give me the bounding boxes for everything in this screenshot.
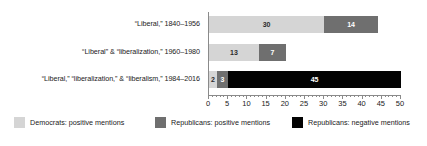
category-label-2: “Liberal,” “liberalization,” & “liberali…	[42, 75, 200, 82]
bar-row: 13 7	[209, 44, 286, 61]
bar-segment-democrats-positive[interactable]: 30	[209, 16, 324, 33]
x-axis-minor-tick	[243, 95, 244, 97]
x-axis-minor-tick	[231, 95, 232, 97]
x-axis-minor-tick	[327, 95, 328, 97]
x-axis-minor-tick	[396, 95, 397, 97]
bar-row: 30 14	[209, 16, 378, 33]
x-axis-tick-label: 0	[206, 100, 210, 108]
x-axis-minor-tick	[254, 95, 255, 97]
x-axis-minor-tick	[385, 95, 386, 97]
bar-segment-republicans-positive[interactable]: 14	[324, 16, 378, 33]
bar-segment-republicans-positive[interactable]: 3	[217, 71, 229, 88]
x-axis-tick-label: 20	[281, 100, 289, 108]
x-axis-minor-tick	[308, 95, 309, 97]
bar-value-label: 3	[220, 76, 224, 83]
x-axis-tick-label: 30	[319, 100, 327, 108]
x-axis-minor-tick	[235, 95, 236, 97]
x-axis-tick-label: 40	[357, 100, 365, 108]
legend-item-democrats-positive[interactable]: Democrats: positive mentions	[14, 117, 124, 128]
x-axis-tick-label: 25	[300, 100, 308, 108]
x-axis-minor-tick	[300, 95, 301, 97]
x-axis-minor-tick	[212, 95, 213, 97]
category-axis-labels: “Liberal,” 1840–1956 “Liberal” & “libera…	[0, 0, 204, 104]
x-axis-minor-tick	[319, 95, 320, 97]
legend-label: Republicans: positive mentions	[171, 119, 270, 126]
bar-value-label: 13	[230, 49, 238, 56]
x-axis-minor-tick	[369, 95, 370, 97]
bar-value-label: 14	[347, 21, 355, 28]
x-axis-minor-tick	[296, 95, 297, 97]
x-axis-tick-label: 15	[261, 100, 269, 108]
category-label-0: “Liberal,” 1840–1956	[135, 20, 200, 27]
bar-segment-republicans-negative[interactable]: 45	[228, 71, 401, 88]
x-axis-minor-tick	[392, 95, 393, 97]
x-axis-minor-tick	[277, 95, 278, 97]
x-axis-minor-tick	[262, 95, 263, 97]
x-axis-minor-tick	[354, 95, 355, 97]
x-axis-minor-tick	[388, 95, 389, 97]
x-axis-minor-tick	[273, 95, 274, 97]
x-axis-tick-label: 45	[377, 100, 385, 108]
plot-area: 30 14 13 7 2 3 45	[208, 12, 400, 95]
x-axis-minor-tick	[281, 95, 282, 97]
x-axis-minor-tick	[346, 95, 347, 97]
x-axis-minor-tick	[335, 95, 336, 97]
legend-swatch-icon	[292, 117, 303, 128]
legend-swatch-icon	[155, 117, 166, 128]
x-axis-minor-tick	[350, 95, 351, 97]
x-axis-minor-tick	[289, 95, 290, 97]
category-label-1: “Liberal” & “liberalization,” 1960–1980	[82, 48, 200, 55]
x-axis-tick-label: 5	[225, 100, 229, 108]
bar-value-label: 7	[270, 49, 274, 56]
x-axis-minor-tick	[223, 95, 224, 97]
x-axis-minor-tick	[220, 95, 221, 97]
legend-item-republicans-positive[interactable]: Republicans: positive mentions	[155, 117, 270, 128]
x-axis-minor-tick	[250, 95, 251, 97]
x-axis-minor-tick	[239, 95, 240, 97]
x-axis-tick-labels: 05101520253035404550	[208, 100, 401, 112]
chart-legend: Democrats: positive mentions Republicans…	[0, 117, 427, 135]
legend-item-republicans-negative[interactable]: Republicans: negative mentions	[292, 117, 410, 128]
x-axis-minor-tick	[269, 95, 270, 97]
bar-segment-democrats-positive[interactable]: 13	[209, 44, 259, 61]
x-axis-minor-tick	[377, 95, 378, 97]
x-axis-tick-label: 35	[338, 100, 346, 108]
x-axis-tick-label: 10	[242, 100, 250, 108]
x-axis-minor-tick	[316, 95, 317, 97]
x-axis-minor-tick	[312, 95, 313, 97]
bar-segment-democrats-positive[interactable]: 2	[209, 71, 217, 88]
bar-value-label: 30	[263, 21, 271, 28]
bar-value-label: 2	[211, 76, 215, 83]
bar-segment-republicans-positive[interactable]: 7	[259, 44, 286, 61]
stacked-bar-chart: “Liberal,” 1840–1956 “Liberal” & “libera…	[0, 0, 427, 146]
x-axis-tick-label: 50	[396, 100, 404, 108]
x-axis-minor-tick	[331, 95, 332, 97]
legend-label: Democrats: positive mentions	[30, 119, 124, 126]
bar-value-label: 45	[311, 76, 319, 83]
x-axis-minor-tick	[365, 95, 366, 97]
legend-label: Republicans: negative mentions	[308, 119, 410, 126]
x-axis-minor-tick	[216, 95, 217, 97]
legend-swatch-icon	[14, 117, 25, 128]
x-axis-minor-tick	[358, 95, 359, 97]
x-axis-minor-tick	[373, 95, 374, 97]
x-axis-minor-tick	[258, 95, 259, 97]
x-axis-minor-tick	[292, 95, 293, 97]
x-axis-minor-tick	[339, 95, 340, 97]
bar-row: 2 3 45	[209, 71, 401, 88]
